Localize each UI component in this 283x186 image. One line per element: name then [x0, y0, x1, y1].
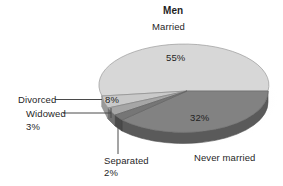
chart-title: Men: [163, 5, 183, 16]
value-never-married: 32%: [190, 112, 209, 123]
label-widowed: Widowed: [26, 108, 66, 119]
value-married: 55%: [166, 52, 185, 63]
label-separated: Separated: [104, 155, 149, 166]
label-divorced: Divorced: [18, 94, 56, 105]
label-married: Married: [152, 21, 185, 32]
value-widowed: 3%: [26, 121, 40, 132]
pie-chart-figure: Men Married 55% Never married 32% Divorc…: [0, 0, 283, 186]
value-separated: 2%: [104, 167, 118, 178]
label-never-married: Never married: [194, 152, 255, 163]
value-divorced: 8%: [105, 94, 119, 105]
